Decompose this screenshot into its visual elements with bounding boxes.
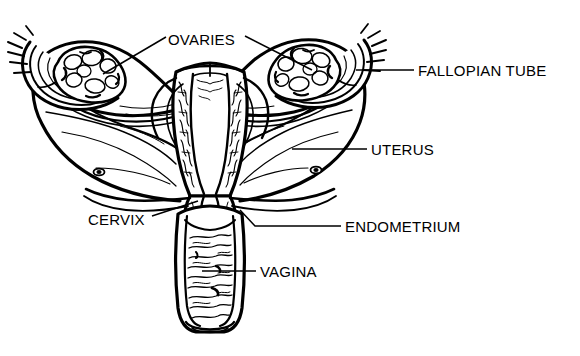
label-uterus: UTERUS [371,142,434,157]
label-fallopian-tube: FALLOPIAN TUBE [418,63,546,78]
label-cervix: CERVIX [88,212,145,227]
label-ovaries: OVARIES [168,32,235,47]
label-vagina: VAGINA [260,264,317,279]
vaginal-canal [176,206,245,333]
label-endometrium: ENDOMETRIUM [345,219,461,234]
anatomy-diagram: OVARIES FALLOPIAN TUBE UTERUS CERVIX END… [0,0,580,356]
anatomy-illustration [0,0,580,356]
